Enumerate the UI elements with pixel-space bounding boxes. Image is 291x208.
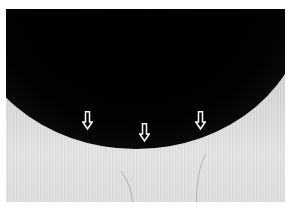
arrow-left-icon bbox=[82, 111, 93, 130]
photo bbox=[6, 9, 285, 202]
arrow-right-icon bbox=[195, 111, 206, 130]
arrow-center-icon bbox=[139, 123, 150, 142]
